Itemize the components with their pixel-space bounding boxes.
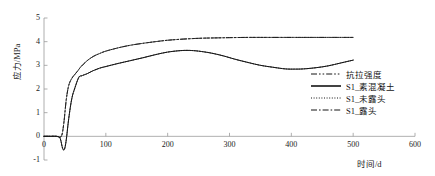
x-tick-label: 300 xyxy=(216,140,244,149)
legend-item-label: S1_素混凝土 xyxy=(346,80,395,92)
y-tick-label: 4 xyxy=(20,37,40,46)
series-line xyxy=(44,50,353,150)
x-tick-label: 600 xyxy=(401,140,429,149)
y-tick-label: 3 xyxy=(20,60,40,69)
y-tick-label: 2 xyxy=(20,84,40,93)
y-tick-label: 1 xyxy=(20,108,40,117)
chart-figure: 应力/MPa 时间/d 543210-1 0100200300400500600… xyxy=(0,0,435,176)
legend-line-swatch xyxy=(311,105,341,115)
x-tick-label: 400 xyxy=(277,140,305,149)
legend-line-swatch xyxy=(311,81,341,91)
legend-line-swatch xyxy=(311,93,341,103)
legend-item-label: S1_露头 xyxy=(346,104,377,116)
chart-legend: 抗拉强度S1_素混凝土S1_未露头S1_露头 xyxy=(311,68,431,116)
legend-item-label: 抗拉强度 xyxy=(346,68,382,80)
x-tick-label: 100 xyxy=(92,140,120,149)
x-tick-label: 0 xyxy=(30,140,58,149)
legend-line-swatch xyxy=(311,69,341,79)
x-tick-label: 200 xyxy=(154,140,182,149)
x-axis-title: 时间/d xyxy=(357,157,382,169)
series-line xyxy=(44,37,353,137)
series-line xyxy=(44,50,353,150)
series-group xyxy=(44,37,353,150)
legend-item[interactable]: S1_未露头 xyxy=(311,92,431,104)
y-tick-label: -1 xyxy=(20,155,40,164)
legend-item[interactable]: S1_素混凝土 xyxy=(311,80,431,92)
y-tick-label: 0 xyxy=(20,131,40,140)
legend-item[interactable]: S1_露头 xyxy=(311,104,431,116)
y-tick-label: 5 xyxy=(20,13,40,22)
legend-item-label: S1_未露头 xyxy=(346,92,386,104)
series-line xyxy=(44,37,353,137)
x-tick-label: 500 xyxy=(339,140,367,149)
legend-item[interactable]: 抗拉强度 xyxy=(311,68,431,80)
